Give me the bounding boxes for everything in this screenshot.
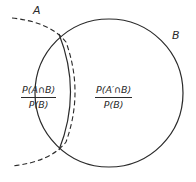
- fraction-acomp-and-b-numerator: P(A′∩B): [95, 85, 132, 98]
- fraction-a-and-b-numerator: P(A∩B): [21, 85, 56, 98]
- fraction-a-and-b: P(A∩B) P(B): [21, 85, 56, 109]
- set-a-label: A: [33, 5, 41, 16]
- fraction-a-and-b-denominator: P(B): [21, 98, 56, 110]
- fraction-acomp-and-b-denominator: P(B): [95, 98, 132, 110]
- set-b-label: B: [172, 30, 180, 41]
- fraction-acomp-and-b: P(A′∩B) P(B): [95, 85, 132, 109]
